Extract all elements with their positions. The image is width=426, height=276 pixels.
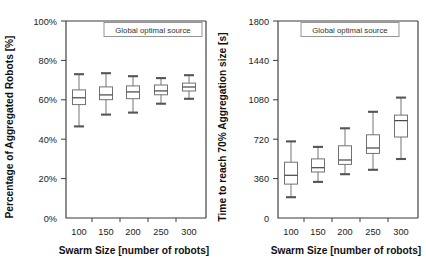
y-tick-label: 1800 [249,17,269,27]
y-tick-label: 1080 [249,95,269,105]
boxplot-item [155,78,168,104]
x-tick-label: 100 [283,227,298,237]
x-tick-label: 100 [71,227,86,237]
x-axis-title-left: Swarm Size [number of robots] [59,245,210,256]
boxplot-percentage-aggregated-robots: Percentage of Aggregated Robots [%] 100%… [0,0,213,276]
x-tick-label: 150 [310,227,325,237]
x-tick-label: 250 [365,227,380,237]
y-tick-label: 0% [44,214,57,224]
y-tick-label: 40% [39,135,57,145]
chart-panel-right: Time to reach 70% Aggregation size [s] 1… [213,0,426,276]
boxplot-item [73,74,86,126]
chart-panel-left: Percentage of Aggregated Robots [%] 100%… [0,0,213,276]
boxplot-item [127,76,140,112]
boxplot-item [312,147,325,182]
annotation-label-right: Global optimal source [312,26,387,35]
y-axis-title-right: Time to reach 70% Aggregation size [s] [217,32,228,221]
annotation-label-left: Global optimal source [115,26,190,35]
boxplot-item [339,128,352,174]
boxplot-item [367,112,380,170]
y-axis-title-left: Percentage of Aggregated Robots [%] [4,35,15,218]
x-tick-label: 300 [181,227,196,237]
boxplot-item [285,141,298,197]
x-tick-label: 200 [125,227,140,237]
x-tick-label: 200 [337,227,352,237]
y-tick-label: 720 [254,135,269,145]
y-tick-label: 20% [39,174,57,184]
y-tick-label: 360 [254,174,269,184]
y-tick-label: 0 [264,214,269,224]
x-tick-label: 300 [393,227,408,237]
y-tick-label: 100% [34,17,58,27]
x-tick-label: 150 [98,227,113,237]
boxplot-item [100,73,113,114]
x-tick-label: 250 [153,227,168,237]
y-tick-label: 80% [39,56,57,66]
boxplot-item [395,98,408,159]
boxplot-item [183,75,196,99]
boxplot-time-to-reach-aggregation: Time to reach 70% Aggregation size [s] 1… [213,0,426,276]
figure-container: Percentage of Aggregated Robots [%] 100%… [0,0,426,276]
y-tick-label: 1440 [249,56,269,66]
x-axis-title-right: Swarm Size [number of robots] [271,245,422,256]
y-tick-label: 60% [39,95,57,105]
plot-axes-left [66,21,206,218]
